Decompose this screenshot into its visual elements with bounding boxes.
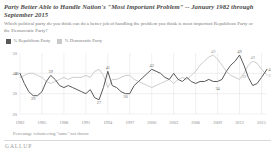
chart-legend: % Republican Party % Democratic Party <box>6 37 271 45</box>
gallup-logo: GALLUP <box>5 143 271 149</box>
x-tick-label: 1985 <box>38 120 47 125</box>
x-tick-label: 1991 <box>81 120 90 125</box>
x-tick-label: 2009 <box>213 120 222 125</box>
legend-item-democrat[interactable]: % Democratic Party <box>57 38 102 44</box>
chart-footnote: Percentage volunteering "same" not shown <box>13 131 271 137</box>
data-point-label: 30 <box>123 94 128 99</box>
data-point-label: 42 <box>268 67 271 72</box>
legend-label-republican: % Republican Party <box>14 38 51 44</box>
x-tick-label: 2003 <box>169 120 178 125</box>
x-tick-label: 1994 <box>103 120 112 125</box>
data-point-label: 49 <box>237 49 242 54</box>
chart-subtitle: Which political party do you think can d… <box>4 21 271 34</box>
chart-page: Party Better Able to Handle Nation's "Mo… <box>0 0 275 167</box>
data-point-label: 34 <box>215 86 220 91</box>
data-point-label: 27 <box>97 100 102 105</box>
y-tick-label: 20 <box>13 112 18 117</box>
x-tick-label: 2006 <box>191 120 200 125</box>
y-tick-label: 30 <box>13 91 18 96</box>
y-tick-label: 50 <box>13 51 18 56</box>
x-tick-label: 2015 <box>257 120 266 125</box>
series-line-republican <box>20 55 267 100</box>
legend-item-republican[interactable]: % Republican Party <box>6 38 50 44</box>
data-point-label: 39 <box>242 74 247 79</box>
chart-title: Party Better Able to Handle Nation's "Mo… <box>4 3 271 19</box>
x-tick-label: 2000 <box>147 120 156 125</box>
data-point-label: 40 <box>14 71 19 76</box>
data-point-label: 49 <box>211 49 216 54</box>
legend-label-democrat: % Democratic Party <box>65 38 102 44</box>
x-tick-label: 1988 <box>60 120 69 125</box>
x-tick-label: 1982 <box>16 120 25 125</box>
data-point-label: 37 <box>268 73 271 78</box>
chart-plot-area: 504030204029392741304234494249493937 <box>4 46 271 120</box>
footer-divider <box>4 140 271 141</box>
legend-swatch-democrat <box>57 39 62 44</box>
data-point-label: 49 <box>251 55 256 60</box>
x-tick-label: 1997 <box>125 120 134 125</box>
data-point-label: 42 <box>150 63 154 68</box>
chart-svg: 504030204029392741304234494249493937 <box>4 46 271 120</box>
data-point-label: 41 <box>106 65 110 70</box>
chart-x-axis: 1982198519881991199419972000200320062009… <box>4 120 271 129</box>
legend-swatch-republican <box>6 39 11 44</box>
data-point-label: 29 <box>31 96 36 101</box>
x-tick-label: 2012 <box>235 120 244 125</box>
